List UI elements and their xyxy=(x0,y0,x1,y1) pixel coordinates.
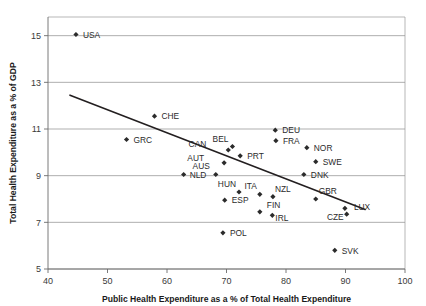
y-axis-title: Total Health Expenditure as a % of GDP xyxy=(8,62,18,224)
point-label-NLD: NLD xyxy=(190,170,207,180)
data-points-group: USACHEGRCDEUFRANORBELCANPRTSWEAUTNLDAUSD… xyxy=(73,30,370,256)
y-tick-label-13: 13 xyxy=(31,78,41,88)
x-tick-label-80: 80 xyxy=(281,276,291,286)
gridlines-group xyxy=(48,36,405,269)
data-point-AUT xyxy=(222,160,227,165)
data-point-ESP xyxy=(222,198,227,203)
point-label-BEL: BEL xyxy=(213,134,229,144)
point-label-USA: USA xyxy=(83,30,101,40)
point-label-NZL: NZL xyxy=(275,184,291,194)
x-tick-label-100: 100 xyxy=(397,276,412,286)
point-label-CHE: CHE xyxy=(162,111,180,121)
data-point-SWE xyxy=(313,159,318,164)
point-label-HUN: HUN xyxy=(218,179,236,189)
data-point-USA xyxy=(73,32,78,37)
data-point-PRT xyxy=(238,153,243,158)
data-point-GRC xyxy=(124,137,129,142)
point-label-PRT: PRT xyxy=(247,151,264,161)
point-label-SVK: SVK xyxy=(342,246,359,256)
y-tick-label-7: 7 xyxy=(36,218,41,228)
x-axis-ticks: 405060708090100 xyxy=(43,269,413,286)
data-point-NZL xyxy=(270,194,275,199)
data-point-NOR xyxy=(304,145,309,150)
y-tick-label-9: 9 xyxy=(36,171,41,181)
point-label-DEU: DEU xyxy=(282,125,300,135)
data-point-POL xyxy=(220,230,225,235)
x-tick-label-70: 70 xyxy=(221,276,231,286)
x-tick-label-40: 40 xyxy=(43,276,53,286)
data-point-CHE xyxy=(152,114,157,119)
data-point-DNK xyxy=(301,172,306,177)
point-label-FIN: FIN xyxy=(267,200,281,210)
x-tick-label-60: 60 xyxy=(162,276,172,286)
x-axis-title: Public Health Expenditure as a % of Tota… xyxy=(102,294,351,304)
scatter-chart: 405060708090100 579111315 USACHEGRCDEUFR… xyxy=(0,0,426,306)
x-tick-label-90: 90 xyxy=(340,276,350,286)
y-tick-label-5: 5 xyxy=(36,264,41,274)
point-label-IRL: IRL xyxy=(275,213,288,223)
point-label-AUS: AUS xyxy=(193,161,211,171)
y-axis-ticks: 579111315 xyxy=(31,31,48,274)
point-label-ESP: ESP xyxy=(232,195,249,205)
data-point-BEL xyxy=(230,144,235,149)
y-tick-label-15: 15 xyxy=(31,31,41,41)
data-point-LUX xyxy=(342,206,347,211)
point-label-ITA: ITA xyxy=(244,181,257,191)
plot-svg: 405060708090100 579111315 USACHEGRCDEUFR… xyxy=(0,0,426,306)
data-point-GBR xyxy=(313,196,318,201)
point-label-CZE: CZE xyxy=(327,212,344,222)
data-point-ITA xyxy=(257,192,262,197)
data-point-AUS xyxy=(213,172,218,177)
x-tick-label-50: 50 xyxy=(102,276,112,286)
data-point-SVK xyxy=(332,248,337,253)
data-point-FRA xyxy=(273,138,278,143)
y-tick-label-11: 11 xyxy=(32,124,41,134)
data-point-DEU xyxy=(273,128,278,133)
point-label-DNK: DNK xyxy=(311,170,329,180)
point-label-SWE: SWE xyxy=(323,157,342,167)
data-point-CAN xyxy=(226,147,231,152)
point-label-CAN: CAN xyxy=(189,139,207,149)
data-point-HUN xyxy=(236,189,241,194)
point-label-GBR: GBR xyxy=(319,186,337,196)
point-label-POL: POL xyxy=(230,228,247,238)
point-label-FRA: FRA xyxy=(283,136,300,146)
data-point-CZE xyxy=(344,212,349,217)
point-label-GRC: GRC xyxy=(134,135,153,145)
data-point-IRL xyxy=(270,213,275,218)
data-point-NLD xyxy=(181,172,186,177)
data-point-FIN xyxy=(257,209,262,214)
point-label-LUX: LUX xyxy=(354,202,371,212)
point-label-NOR: NOR xyxy=(314,143,333,153)
